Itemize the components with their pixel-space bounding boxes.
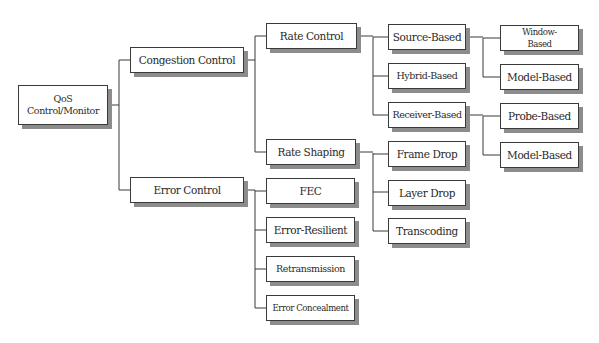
node-model-based-receiver: Model-Based [500,142,579,168]
node-error-control: Error Control [130,177,244,203]
node-source-based: Source-Based [388,24,466,50]
node-fec: FEC [266,178,355,204]
node-transcoding: Transcoding [388,218,466,244]
node-probe-based: Probe-Based [500,103,579,129]
node-label: Transcoding [396,225,458,237]
node-label: Congestion Control [139,54,235,66]
node-label: Layer Drop [399,187,455,199]
node-receiver-based: Receiver-Based [388,102,466,128]
connector-lines [0,0,599,343]
node-layer-drop: Layer Drop [388,180,466,206]
node-error-resilient: Error-Resilient [266,217,355,243]
node-label: FEC [300,185,322,197]
node-label: Rate Shaping [277,146,344,158]
node-error-concealment: Error Concealment [266,295,355,321]
node-window-based: Window- Based [500,25,579,51]
node-frame-drop: Frame Drop [388,141,466,167]
node-qos-control-monitor: QoS Control/Monitor [18,85,108,125]
node-rate-shaping: Rate Shaping [266,139,356,165]
node-rate-control: Rate Control [266,23,357,49]
node-qos-label-line1: QoS [54,93,73,105]
node-label: Frame Drop [397,148,458,160]
node-congestion-control: Congestion Control [130,47,244,73]
node-label-line1: Window- [522,26,557,38]
node-model-based-source: Model-Based [500,64,579,90]
node-label: Hybrid-Based [396,70,457,82]
node-label: Error-Resilient [274,224,347,236]
node-label: Source-Based [393,31,461,43]
qos-taxonomy-diagram: QoS Control/Monitor Congestion Control E… [0,0,599,343]
node-label: Rate Control [280,30,343,42]
node-label: Model-Based [507,149,572,161]
node-hybrid-based: Hybrid-Based [388,63,466,89]
node-label: Error Concealment [272,302,348,314]
node-retransmission: Retransmission [266,256,355,282]
node-label: Probe-Based [508,110,571,122]
node-label: Retransmission [276,263,345,275]
node-label-line2: Based [527,38,551,50]
node-label: Error Control [153,184,220,196]
node-label: Receiver-Based [392,109,461,121]
node-label: Model-Based [507,71,572,83]
node-qos-label-line2: Control/Monitor [27,105,99,117]
